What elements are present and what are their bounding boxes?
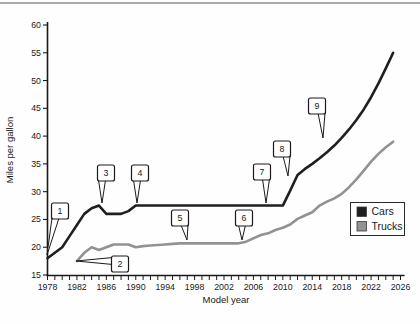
- callout-tail: [76, 258, 113, 265]
- callout-tail: [181, 225, 188, 240]
- callout-number: 2: [118, 259, 123, 269]
- cars-line: [48, 53, 394, 259]
- x-axis-title: Model year: [203, 294, 250, 305]
- callout-number: 8: [280, 144, 285, 154]
- callout-8: 8: [274, 141, 291, 176]
- y-tick-label: 30: [31, 187, 41, 197]
- callout-tail: [263, 179, 270, 203]
- callout-number: 9: [315, 101, 320, 111]
- callout-3: 3: [98, 165, 115, 203]
- x-ticks: 1978198219861990199419982002200620102014…: [38, 276, 411, 293]
- y-tick-label: 15: [31, 270, 41, 280]
- fuel-economy-chart: 1520253035404550556019781982198619901994…: [0, 0, 420, 324]
- x-tick-label: 1990: [126, 282, 146, 292]
- legend-swatch-trucks: [357, 222, 367, 232]
- y-tick-label: 45: [31, 103, 41, 113]
- callout-9: 9: [309, 98, 326, 138]
- callout-2: 2: [76, 256, 129, 272]
- callout-5: 5: [172, 210, 189, 240]
- x-tick-label: 1986: [97, 282, 117, 292]
- y-axis-title: Miles per gallon: [4, 117, 15, 184]
- x-tick-label: 2014: [302, 282, 322, 292]
- legend-swatch-cars: [357, 207, 367, 217]
- x-tick-label: 1982: [67, 282, 87, 292]
- x-tick-label: 2010: [273, 282, 293, 292]
- callout-number: 6: [242, 213, 247, 223]
- callout-number: 7: [260, 167, 265, 177]
- x-tick-label: 1978: [38, 282, 58, 292]
- legend: CarsTrucks: [351, 203, 405, 236]
- legend-label-trucks: Trucks: [372, 220, 403, 232]
- callout-6: 6: [236, 210, 253, 240]
- callout-number: 5: [178, 213, 183, 223]
- y-ticks: 15202530354045505560: [31, 20, 47, 280]
- y-tick-label: 50: [31, 76, 41, 86]
- y-tick-label: 35: [31, 159, 41, 169]
- y-tick-label: 20: [31, 242, 41, 252]
- callout-tail: [99, 180, 106, 203]
- y-tick-label: 55: [31, 48, 41, 58]
- callout-4: 4: [132, 165, 149, 203]
- x-tick-label: 2026: [391, 282, 411, 292]
- page: 1520253035404550556019781982198619901994…: [0, 0, 420, 324]
- callout-tail: [283, 156, 290, 176]
- callout-tail: [134, 180, 141, 203]
- callout-number: 3: [104, 168, 109, 178]
- legend-label-cars: Cars: [372, 205, 394, 217]
- callout-number: 1: [58, 206, 63, 216]
- x-tick-label: 2018: [332, 282, 352, 292]
- chart-svg: 1520253035404550556019781982198619901994…: [0, 0, 420, 324]
- x-tick-label: 1998: [185, 282, 205, 292]
- trucks-line: [77, 142, 393, 261]
- callout-tail: [318, 113, 325, 138]
- x-tick-label: 2022: [361, 282, 381, 292]
- y-tick-label: 40: [31, 131, 41, 141]
- x-tick-label: 2002: [214, 282, 234, 292]
- callout-tail: [239, 225, 246, 240]
- x-tick-label: 1994: [155, 282, 175, 292]
- y-tick-label: 25: [31, 214, 41, 224]
- callout-1: 1: [47, 203, 69, 255]
- x-tick-label: 2006: [244, 282, 264, 292]
- y-tick-label: 60: [31, 20, 41, 30]
- callout-number: 4: [138, 168, 143, 178]
- callout-7: 7: [254, 164, 271, 203]
